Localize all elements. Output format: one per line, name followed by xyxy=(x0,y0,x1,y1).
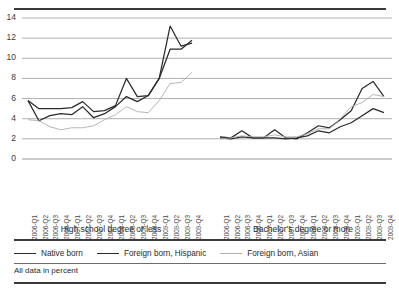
legend-item-foreign-born-asian: Foreign born, Asian xyxy=(220,249,318,258)
legend-swatch-icon xyxy=(220,253,242,254)
y-tick-label: 8 xyxy=(0,72,16,82)
y-tick-label: 0 xyxy=(0,153,16,163)
y-tick-label: 6 xyxy=(0,93,16,103)
x-axis-labels: 2006-Q12006-Q22006-Q32006-Q42007-Q12007-… xyxy=(0,164,399,218)
y-tick-label: 14 xyxy=(0,12,16,22)
chart-figure: 02468101214 2006-Q12006-Q22006-Q32006-Q4… xyxy=(0,0,399,293)
y-tick-label: 4 xyxy=(0,113,16,123)
line-chart-svg xyxy=(0,10,399,162)
chart-title xyxy=(14,0,386,6)
series-line xyxy=(28,72,192,129)
footnote-divider-top xyxy=(14,263,386,264)
y-tick-label: 2 xyxy=(0,133,16,143)
footnote: All data in percent xyxy=(14,266,78,275)
legend-item-foreign-born-hispanic: Foreign born, Hispanic xyxy=(97,249,206,258)
panel-label-bachelors: Bachelor's degree or more xyxy=(214,224,392,234)
legend-label: Foreign born, Hispanic xyxy=(124,249,206,258)
legend-label: Foreign born, Asian xyxy=(247,249,318,258)
bottom-divider xyxy=(14,282,386,284)
y-tick-label: 12 xyxy=(0,32,16,42)
series-line xyxy=(220,81,384,138)
series-line xyxy=(220,109,384,139)
series-line xyxy=(28,26,192,121)
legend-swatch-icon xyxy=(14,253,36,254)
panel-label-high-school: High school degree or less xyxy=(22,224,200,234)
series-line xyxy=(28,40,192,112)
legend-label: Native born xyxy=(41,249,83,258)
y-tick-label: 10 xyxy=(0,52,16,62)
legend-item-native-born: Native born xyxy=(14,249,83,258)
legend-swatch-icon xyxy=(97,253,119,254)
plot-area xyxy=(0,10,399,162)
legend-divider xyxy=(14,239,386,241)
chart-legend: Native born Foreign born, Hispanic Forei… xyxy=(14,245,386,261)
